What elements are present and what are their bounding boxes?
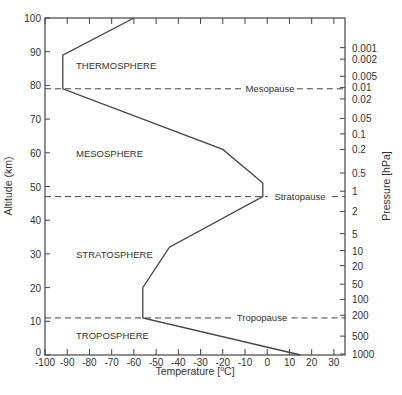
y-tick-label: 50	[30, 182, 42, 193]
y-axis-label: Altitude (km)	[2, 157, 14, 216]
y2-axis-label: Pressure [hPa]	[380, 151, 392, 221]
pressure-tick-label: 500	[352, 331, 369, 342]
y-tick-label: 100	[24, 13, 41, 24]
y-tick-label: 30	[30, 249, 42, 260]
atmosphere-temperature-chart: THERMOSPHEREMESOSPHERESTRATOSPHERETROPOS…	[0, 0, 402, 395]
y-tick-label: 0	[35, 347, 41, 358]
layer-labels: THERMOSPHEREMESOSPHERESTRATOSPHERETROPOS…	[76, 60, 156, 341]
pressure-axis-ticks: 0.0010.0020.0050.010.020.050.10.20.51251…	[340, 43, 377, 360]
pressure-tick-label: 0.2	[352, 144, 366, 155]
x-tick-label: -90	[60, 357, 75, 368]
pressure-tick-label: 0.05	[352, 113, 372, 124]
x-tick-label: 20	[306, 357, 318, 368]
x-tick-label: -10	[238, 357, 253, 368]
x-tick-label: -60	[127, 357, 142, 368]
x-tick-label: -100	[35, 357, 55, 368]
layer-label: TROPOSPHERE	[76, 330, 149, 341]
x-axis-label: Temperature [oC]	[155, 365, 234, 377]
pressure-tick-label: 2	[352, 206, 358, 217]
x-tick-label: 0	[264, 357, 270, 368]
boundary-lines: MesopauseStratopauseTropopause	[45, 83, 345, 323]
y-tick-label: 60	[30, 148, 42, 159]
boundary-label: Stratopause	[274, 191, 325, 202]
pressure-tick-label: 1	[352, 186, 358, 197]
pressure-tick-label: 0.01	[352, 82, 372, 93]
y-tick-label: 70	[30, 114, 42, 125]
y-axis-ticks: 0102030405060708090100	[24, 13, 50, 358]
pressure-tick-label: 0.5	[352, 168, 366, 179]
pressure-tick-label: 1000	[352, 349, 375, 360]
y-tick-label: 20	[30, 283, 42, 294]
pressure-tick-label: 10	[352, 246, 364, 257]
pressure-tick-label: 0.02	[352, 94, 372, 105]
pressure-tick-label: 20	[352, 261, 364, 272]
y-tick-label: 80	[30, 80, 42, 91]
boundary-label: Mesopause	[245, 83, 294, 94]
pressure-tick-label: 0.002	[352, 54, 377, 65]
boundary-label: Tropopause	[237, 312, 287, 323]
pressure-tick-label: 100	[352, 294, 369, 305]
pressure-tick-label: 0.001	[352, 43, 377, 54]
layer-label: MESOSPHERE	[76, 148, 143, 159]
layer-label: THERMOSPHERE	[76, 60, 156, 71]
x-tick-label: 10	[284, 357, 296, 368]
pressure-tick-label: 0.005	[352, 71, 377, 82]
pressure-tick-label: 50	[352, 279, 364, 290]
layer-label: STRATOSPHERE	[76, 249, 153, 260]
pressure-tick-label: 0.1	[352, 129, 366, 140]
y-tick-label: 10	[30, 316, 42, 327]
x-tick-label: 30	[328, 357, 340, 368]
x-tick-label: -70	[104, 357, 119, 368]
pressure-tick-label: 200	[352, 310, 369, 321]
x-tick-label: -80	[82, 357, 97, 368]
y-tick-label: 90	[30, 47, 42, 58]
pressure-tick-label: 5	[352, 229, 358, 240]
y-tick-label: 40	[30, 215, 42, 226]
